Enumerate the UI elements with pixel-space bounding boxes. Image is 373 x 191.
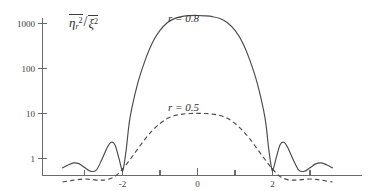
y-tick-label-1000: 1000: [17, 19, 36, 29]
plot-svg: 1000 100 10 1 -2 0 2 r = 0.8 r = 0.5: [0, 0, 373, 191]
figure-container: ηr2/ξ2 1000 100 10 1 -2 0: [0, 0, 373, 191]
curve-r-0-8: [63, 15, 333, 171]
y-tick-label-10: 10: [26, 109, 36, 119]
x-tick-label-0: 0: [195, 179, 200, 189]
y-axis-title: ηr2/ξ2: [69, 14, 98, 31]
annotation-r-0-5: r = 0.5: [168, 101, 199, 113]
y-axis-denominator: ξ2: [88, 15, 98, 30]
y-tick-label-1: 1: [31, 154, 36, 164]
annotation-r-0-8: r = 0.8: [168, 12, 199, 24]
x-tick-label-2: 2: [270, 179, 275, 189]
y-axis-numerator: ηr2: [69, 14, 83, 31]
xi-exponent: 2: [94, 17, 98, 26]
x-tick-label-neg2: -2: [119, 179, 127, 189]
fraction-slash: /: [83, 15, 89, 29]
y-tick-label-100: 100: [22, 64, 36, 74]
